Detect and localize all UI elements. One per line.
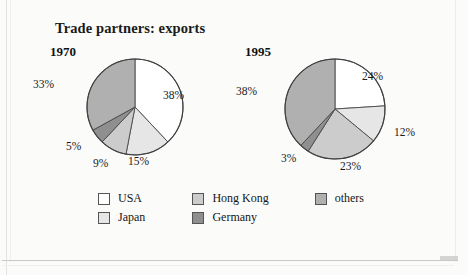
legend-label-hong-kong: Hong Kong [212, 191, 268, 206]
page-edge-line-right [455, 0, 456, 262]
pie-1995-title: 1995 [245, 44, 271, 60]
pie-1970-label-japan: 15% [128, 155, 149, 167]
pie-1970-label-hongkong: 9% [93, 157, 108, 169]
legend-label-others: others [335, 191, 364, 206]
legend: USA Hong Kong others Japan Germany [98, 189, 398, 227]
page-edge-line-left [6, 0, 7, 275]
page-edge-line-left-secondary [10, 0, 11, 262]
page-corner-mark [440, 256, 458, 260]
pie-1970-label-usa: 38% [163, 89, 184, 101]
page-edge-line-bottom-secondary [2, 265, 454, 266]
pie-slice-usa [335, 59, 385, 109]
legend-item-japan[interactable]: Japan [98, 210, 192, 225]
pie-1995-label-usa: 24% [362, 70, 383, 82]
pie-1970-label-germany: 5% [66, 140, 81, 152]
legend-item-others[interactable]: others [315, 191, 398, 206]
legend-row: USA Hong Kong others [98, 189, 398, 208]
legend-item-germany[interactable]: Germany [192, 210, 314, 225]
legend-swatch-japan [98, 212, 110, 224]
legend-row: Japan Germany [98, 208, 398, 227]
legend-label-japan: Japan [118, 210, 145, 225]
pie-1970-label-others: 33% [33, 78, 54, 90]
pie-1995-label-germany: 3% [281, 152, 296, 164]
legend-item-usa[interactable]: USA [98, 191, 192, 206]
legend-swatch-others [315, 193, 327, 205]
pie-chart-1970 [85, 57, 185, 157]
pie-1970-title: 1970 [50, 44, 76, 60]
legend-label-germany: Germany [212, 210, 257, 225]
pie-1970-svg [85, 57, 185, 157]
legend-item-hong-kong[interactable]: Hong Kong [192, 191, 314, 206]
legend-swatch-hong-kong [192, 193, 204, 205]
legend-swatch-usa [98, 193, 110, 205]
legend-label-usa: USA [118, 191, 142, 206]
pie-1995-label-japan: 12% [394, 126, 415, 138]
page-edge-line-bottom [2, 260, 458, 261]
figure-canvas: Trade partners: exports 1970 1995 38% 15… [0, 0, 468, 275]
legend-swatch-germany [192, 212, 204, 224]
pie-1995-label-others: 38% [236, 85, 257, 97]
pie-1995-label-hongkong: 23% [340, 160, 361, 172]
page-title: Trade partners: exports [55, 20, 205, 37]
